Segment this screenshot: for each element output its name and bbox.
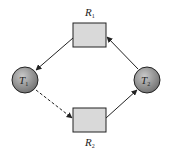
edge-r1-to-t1 [36,38,73,70]
resource-r1-label: R1 [84,6,95,19]
thread-t1: T1 [12,67,38,93]
edge-t1-to-r2-claim [36,90,72,118]
resource-allocation-graph: R1 R2 T1 T2 [0,0,170,154]
edge-r2-to-t2 [106,90,137,118]
thread-t2: T2 [134,67,160,93]
resource-r1: R1 [73,6,106,47]
resource-r2: R2 [73,108,106,149]
edge-t2-to-r1 [107,37,138,69]
resource-r2-label: R2 [84,136,95,149]
